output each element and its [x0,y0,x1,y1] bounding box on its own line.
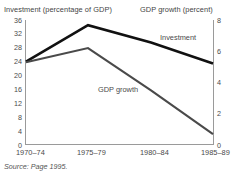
right-tick-8: 8 [217,17,221,24]
left-axis-title: Investment (percentage of GDP) [4,5,112,14]
series-label-investment: Investment [160,33,196,42]
right-tick-2: 2 [217,110,221,117]
source-note: Source: Page 1995. [4,162,68,171]
right-tick-4: 4 [217,79,221,86]
left-tick-32: 32 [14,30,22,37]
left-tick-12: 12 [14,100,22,107]
investment-line [26,25,213,63]
series-label-gdp-growth: GDP growth [98,85,138,94]
left-tick-16: 16 [14,86,22,93]
x-tick-1980-84: 1980–84 [140,148,169,157]
left-tick-20: 20 [14,72,22,79]
chart-figure: Investment (percentage of GDP) GDP growt… [0,0,250,177]
left-tick-36: 36 [14,17,22,24]
left-tick-8: 8 [18,114,22,121]
right-axis-title: GDP growth (percent) [140,5,213,14]
left-tick-24: 24 [14,58,22,65]
x-tick-1975-79: 1975–79 [77,148,106,157]
x-tick-1970-74: 1970–74 [16,148,45,157]
right-tick-6: 6 [217,48,221,55]
left-tick-28: 28 [14,44,22,51]
left-tick-4: 4 [18,128,22,135]
x-tick-1985-89: 1985–89 [201,148,230,157]
